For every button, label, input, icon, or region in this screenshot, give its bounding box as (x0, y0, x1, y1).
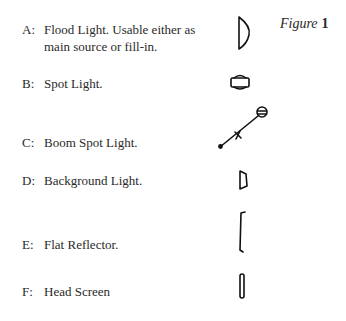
item-letter: E: (22, 236, 34, 253)
item-line: Flood Light. Usable either as (44, 22, 195, 37)
item-line: main source or fill-in. (44, 39, 157, 54)
figure-word: Figure (280, 16, 318, 31)
item-description: Boom Spot Light. (44, 134, 138, 151)
item-description: Flat Reflector. (44, 236, 118, 253)
item-letter: A: (22, 21, 35, 38)
item-letter: B: (22, 75, 34, 92)
head-screen-icon (238, 273, 246, 299)
item-description: Spot Light. (44, 75, 103, 92)
flat-reflector-icon (238, 210, 248, 254)
item-description: Flood Light. Usable either as main sourc… (44, 21, 195, 55)
background-light-icon (239, 170, 249, 190)
item-description: Head Screen (44, 283, 110, 300)
spot-light-icon (230, 74, 250, 90)
item-letter: C: (22, 134, 34, 151)
item-description: Background Light. (44, 172, 142, 189)
flood-light-icon (237, 16, 251, 50)
figure-number: 1 (322, 16, 329, 31)
boom-spot-light-icon (218, 104, 270, 150)
item-letter: D: (22, 172, 35, 189)
figure-label: Figure1 (280, 16, 329, 32)
item-letter: F: (22, 283, 33, 300)
